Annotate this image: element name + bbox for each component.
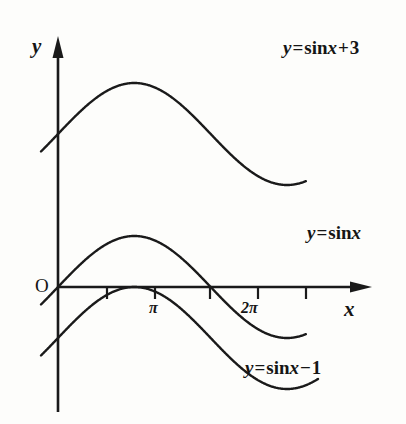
curve-label-operator: + (337, 37, 350, 58)
x-axis-arrowhead (350, 282, 372, 293)
curve-label-function: sin (328, 222, 351, 243)
curve-label-operator: − (299, 357, 312, 378)
sine-graph-figure: y x O π 2π y=sinx+3 y=sinx y=sinx−1 (0, 0, 406, 424)
x-axis-label: x (344, 299, 355, 320)
curve-label-sin-x: y=sinx (307, 223, 363, 242)
curve-label-equals: = (253, 357, 266, 378)
curve-label-constant: 1 (312, 357, 322, 378)
curve-label-equals: = (291, 37, 304, 58)
curve-label-sin-x-minus-1: y=sinx−1 (245, 358, 321, 377)
curve-0 (41, 83, 306, 185)
y-axis-label: y (32, 36, 41, 57)
curve-label-function: sin (266, 357, 289, 378)
origin-label: O (35, 276, 49, 295)
tick-label-pi: π (149, 300, 158, 316)
tick-label-2pi: 2π (241, 300, 258, 316)
curve-label-function: sin (304, 37, 327, 58)
curve-label-sin-x-plus-3: y=sinx+3 (283, 38, 359, 57)
curve-label-equals: = (315, 222, 328, 243)
plot-canvas (0, 0, 406, 424)
curve-label-argument: x (352, 222, 362, 243)
curve-label-constant: 3 (350, 37, 360, 58)
curve-label-operator (361, 222, 363, 243)
x-axis-ticks (107, 287, 306, 299)
curves-group (41, 83, 318, 389)
y-axis-arrowhead (53, 36, 64, 58)
curve-label-argument: x (328, 37, 338, 58)
curve-label-argument: x (290, 357, 300, 378)
